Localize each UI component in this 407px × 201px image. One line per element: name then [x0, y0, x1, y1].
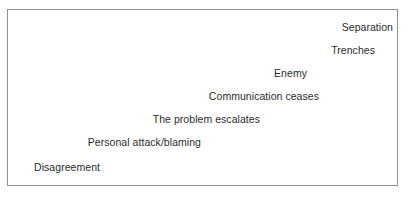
staircase-step-problem-escalates: The problem escalates [153, 112, 260, 126]
staircase-step-disagreement: Disagreement [34, 160, 100, 174]
staircase-step-trenches: Trenches [331, 43, 375, 57]
staircase-step-separation: Separation [342, 20, 393, 34]
step-label: Personal attack/blaming [88, 135, 201, 149]
diagram-canvas: Separation Trenches Enemy Communication … [0, 0, 407, 201]
step-label: Communication ceases [209, 89, 319, 103]
step-label: Enemy [274, 66, 307, 80]
step-label: Disagreement [34, 160, 100, 174]
escalation-diagram-border: Separation Trenches Enemy Communication … [7, 9, 398, 186]
step-label: Trenches [331, 43, 375, 57]
staircase-step-personal-attack-blaming: Personal attack/blaming [88, 135, 201, 149]
staircase-step-enemy: Enemy [274, 66, 307, 80]
step-label: Separation [342, 20, 393, 34]
step-label: The problem escalates [153, 112, 260, 126]
page-margin-strip [0, 191, 407, 201]
staircase-step-communication-ceases: Communication ceases [209, 89, 319, 103]
